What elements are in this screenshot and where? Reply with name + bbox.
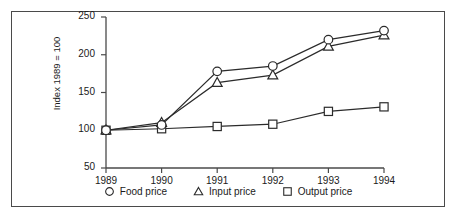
axes-group [106,17,384,168]
series-food-price-line [106,31,384,131]
x-tick-label-1994: 1994 [361,175,407,186]
data-point [157,121,166,130]
chart-legend: Food price Input price Output price [11,186,445,197]
series-input-price-line [106,35,384,130]
triangle-marker-icon [193,186,204,197]
data-point [269,120,277,128]
x-tick-label-1993: 1993 [305,175,351,186]
legend-label-output-price: Output price [298,186,352,197]
legend-item-food-price: Food price [104,186,167,197]
y-ticks [101,17,106,168]
chart-frame: Index 1989 = 100 250 200 150 100 50 1989… [11,11,445,207]
data-point [324,35,333,44]
data-point [213,67,222,76]
x-tick-label-1991: 1991 [194,175,240,186]
legend-item-input-price: Input price [193,186,256,197]
square-marker-icon [282,186,293,197]
series-input-price-markers [101,30,389,134]
circle-marker-icon [104,186,115,197]
x-tick-label-1990: 1990 [139,175,185,186]
y-tick-label-50: 50 [61,161,95,172]
chart-figure: Index 1989 = 100 250 200 150 100 50 1989… [0,0,457,218]
data-point [213,122,221,130]
y-tick-label-150: 150 [61,86,95,97]
legend-label-input-price: Input price [209,186,256,197]
data-point [324,107,332,115]
data-point [380,26,389,35]
legend-item-output-price: Output price [282,186,352,197]
y-tick-label-200: 200 [61,48,95,59]
y-axis-label: Index 1989 = 100 [51,14,62,134]
data-point [380,103,388,111]
data-point [268,70,278,79]
y-tick-label-100: 100 [61,123,95,134]
data-point [102,126,111,135]
legend-label-food-price: Food price [120,186,167,197]
x-tick-label-1989: 1989 [83,175,129,186]
x-tick-label-1992: 1992 [250,175,296,186]
x-ticks [106,168,384,173]
y-tick-label-250: 250 [61,10,95,21]
data-point [269,62,278,71]
